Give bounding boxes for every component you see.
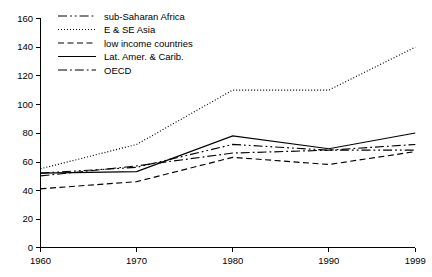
y-tick-label: 0 <box>28 242 33 253</box>
y-tick-label: 100 <box>17 99 33 110</box>
y-tick-label: 140 <box>17 41 33 52</box>
y-tick-label: 60 <box>22 156 33 167</box>
chart-container: 160 140 120 100 80 60 40 20 0 1960 1970 … <box>0 0 432 277</box>
legend-entry[interactable]: Lat. Amer. & Carib. <box>58 51 184 62</box>
x-axis-ticks <box>41 248 416 253</box>
y-tick-label: 80 <box>22 127 33 138</box>
y-tick-label: 120 <box>17 70 33 81</box>
x-tick-label: 1960 <box>30 255 51 266</box>
y-tick-label: 20 <box>22 213 33 224</box>
series-line-lat-amer-carib <box>41 133 416 173</box>
y-tick-label: 40 <box>22 185 33 196</box>
line-chart-plot: 160 140 120 100 80 60 40 20 0 1960 1970 … <box>0 0 432 277</box>
legend-entry-label: E & SE Asia <box>104 24 156 35</box>
legend-entry-label: low income countries <box>104 38 193 49</box>
legend-entry[interactable]: low income countries <box>58 38 193 49</box>
chart-legend: sub-Saharan Africa E & SE Asia low incom… <box>58 11 193 76</box>
x-axis-tick-labels: 1960 1970 1980 1990 1999 <box>30 255 426 266</box>
legend-entry-label: Lat. Amer. & Carib. <box>104 51 184 62</box>
data-series-group <box>41 47 416 189</box>
legend-entry-label: OECD <box>104 65 132 76</box>
legend-entry[interactable]: E & SE Asia <box>58 24 156 35</box>
legend-entry[interactable]: OECD <box>58 65 132 76</box>
x-tick-label: 1970 <box>126 255 147 266</box>
legend-entry[interactable]: sub-Saharan Africa <box>58 11 186 22</box>
x-tick-label: 1980 <box>222 255 243 266</box>
x-tick-label: 1999 <box>405 255 426 266</box>
series-line-oecd <box>41 144 416 175</box>
y-tick-label: 160 <box>17 13 33 24</box>
legend-entry-label: sub-Saharan Africa <box>104 11 186 22</box>
y-axis-ticks <box>36 19 41 248</box>
y-axis-tick-labels: 160 140 120 100 80 60 40 20 0 <box>17 13 33 253</box>
x-tick-label: 1990 <box>318 255 339 266</box>
series-line-e-se-asia <box>41 47 416 169</box>
